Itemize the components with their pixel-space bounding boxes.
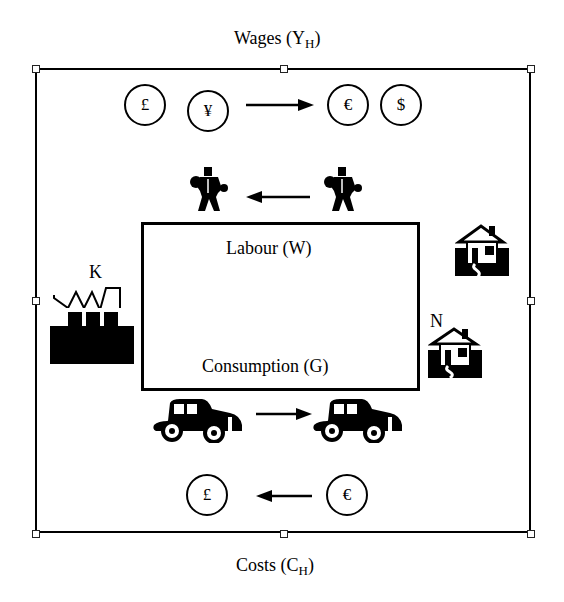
wages-label-text: Wages (Y [234,28,305,48]
costs-label-text: Costs (C [236,555,299,575]
car-icon [150,395,246,443]
wages-label-close: ) [314,28,320,48]
arrow-right-icon [256,407,312,421]
house-icon [455,222,511,278]
euro-symbol: € [343,485,352,505]
pound-symbol: £ [141,95,150,115]
resize-handle-bl[interactable] [32,530,40,538]
resize-handle-ml[interactable] [32,297,40,305]
wages-label-sub: H [305,36,314,51]
pound-coin-icon: £ [124,84,166,126]
euro-coin-icon: € [327,84,369,126]
arrow-left-icon [256,489,312,503]
car-icon [310,395,406,443]
resize-handle-tl[interactable] [32,65,40,73]
resize-handle-tm[interactable] [280,65,288,73]
arrow-right-icon [246,98,314,112]
dollar-coin-icon: $ [380,84,422,126]
labour-label: Labour (W) [226,238,311,259]
costs-label: Costs (CH) [236,555,314,579]
dollar-symbol: $ [397,95,406,115]
pound-symbol: £ [203,485,212,505]
resize-handle-tr[interactable] [527,65,535,73]
costs-label-close: ) [308,555,314,575]
euro-symbol: € [344,95,353,115]
resize-handle-mr[interactable] [527,297,535,305]
costs-label-sub: H [299,563,308,578]
yen-coin-icon: ¥ [187,90,229,132]
resize-handle-br[interactable] [527,530,535,538]
worker-icon [186,163,232,213]
euro-coin-icon: € [326,474,368,516]
arrow-left-icon [246,190,310,204]
yen-symbol: ¥ [204,101,213,121]
worker-icon [320,163,366,213]
wages-label: Wages (YH) [234,28,320,52]
pound-coin-icon: £ [186,474,228,516]
consumption-label: Consumption (G) [202,356,329,377]
resize-handle-bm[interactable] [280,530,288,538]
house-icon [428,326,484,378]
factory-icon [46,280,136,364]
